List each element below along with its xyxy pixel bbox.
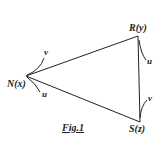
angle-label-s: v bbox=[148, 94, 152, 103]
edge-s-n bbox=[26, 76, 140, 122]
edge-n-r bbox=[26, 36, 138, 76]
vertex-label-s: S(z) bbox=[129, 124, 145, 134]
arc-s bbox=[140, 100, 147, 118]
vertex-label-r: R(y) bbox=[129, 23, 147, 33]
arc-r bbox=[139, 40, 146, 60]
angle-label-n-lower: u bbox=[42, 90, 47, 99]
figure-caption: Fig.1 bbox=[62, 123, 84, 133]
vertex-label-n: N(x) bbox=[7, 79, 26, 89]
edge-r-s bbox=[138, 36, 140, 122]
angle-label-r: u bbox=[147, 57, 152, 66]
angle-label-n-upper: v bbox=[44, 48, 48, 57]
